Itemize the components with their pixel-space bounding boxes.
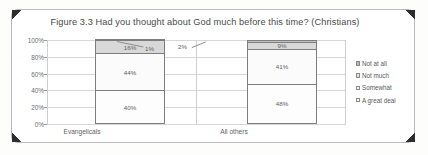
category-divider-middle [196, 40, 197, 125]
legend-label-not-at-all: Not at all [362, 60, 387, 67]
legend-item-not-at-all[interactable]: Not at all [356, 60, 416, 67]
legend-item-somewhat[interactable]: Somewhat [356, 84, 416, 91]
y-tick-40: 40% [16, 87, 44, 94]
bar-label-all-others-not-much: 9% [278, 42, 287, 49]
legend-label-not-much: Not much [362, 72, 389, 79]
category-label-evangelicals: Evangelicals [27, 128, 137, 135]
scanned-page-background: Figure 3.3 Had you thought about God muc… [0, 0, 428, 155]
bar-label-evangelicals-somewhat: 44% [124, 69, 136, 76]
legend-swatch-not-much [356, 73, 360, 77]
category-divider-right [345, 40, 346, 125]
chart-legend: Not at all Not much Somewhat A great dea… [356, 60, 416, 109]
y-tick-20: 20% [16, 104, 44, 111]
y-tick-100: 100% [16, 37, 44, 44]
y-tick-0: 0% [16, 121, 44, 128]
legend-swatch-not-at-all [356, 61, 360, 65]
y-tick-60: 60% [16, 71, 44, 78]
chart-title: Figure 3.3 Had you thought about God muc… [40, 17, 370, 28]
legend-label-a-great-deal: A great deal [362, 97, 396, 104]
legend-swatch-somewhat [356, 86, 360, 90]
bar-segment-all-others-not-much[interactable]: 9% [248, 42, 316, 50]
bar-segment-all-others-a-great-deal[interactable]: 48% [248, 84, 316, 124]
bar-segment-all-others-somewhat[interactable]: 41% [248, 49, 316, 83]
category-label-all-others: All others [179, 128, 289, 135]
stacked-bar-all-others[interactable]: 9% 41% 48% [247, 40, 317, 124]
bar-segment-evangelicals-a-great-deal[interactable]: 40% [96, 90, 164, 124]
y-tick-80: 80% [16, 54, 44, 61]
legend-item-not-much[interactable]: Not much [356, 72, 416, 79]
category-divider-left [47, 40, 48, 125]
callout-all-others-not-at-all: 2% [178, 43, 187, 50]
legend-item-a-great-deal[interactable]: A great deal [356, 97, 416, 104]
stacked-bar-evangelicals[interactable]: 16% 44% 40% [95, 39, 165, 124]
bar-label-all-others-a-great-deal: 48% [276, 100, 288, 107]
legend-swatch-a-great-deal [356, 98, 360, 102]
y-axis-labels: 100% 80% 60% 40% 20% 0% [13, 40, 44, 124]
bar-label-all-others-somewhat: 41% [276, 63, 288, 70]
bar-label-evangelicals-a-great-deal: 40% [124, 104, 136, 111]
bar-segment-evangelicals-somewhat[interactable]: 44% [96, 53, 164, 90]
callout-evangelicals-not-at-all: 1% [145, 45, 154, 52]
legend-label-somewhat: Somewhat [362, 84, 392, 91]
